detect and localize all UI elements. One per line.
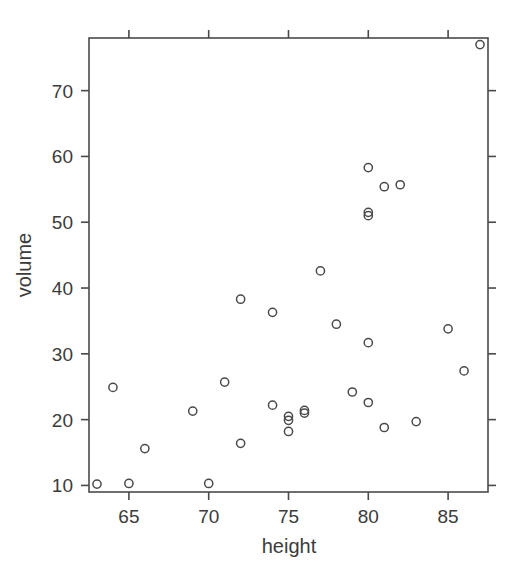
y-axis-title: volume	[13, 233, 35, 297]
scatter-plot-figure: 6570758085 10203040506070 height volume	[0, 0, 525, 577]
y-tick-label: 30	[52, 344, 73, 365]
y-tick-label: 20	[52, 410, 73, 431]
y-tick-label: 40	[52, 278, 73, 299]
x-tick-label: 65	[118, 506, 139, 527]
x-tick-label: 85	[438, 506, 459, 527]
x-tick-label: 75	[278, 506, 299, 527]
plot-background	[0, 0, 525, 577]
plot-canvas: 6570758085 10203040506070 height volume	[0, 0, 525, 577]
y-tick-label: 10	[52, 475, 73, 496]
y-tick-label: 70	[52, 81, 73, 102]
x-axis-title: height	[262, 535, 317, 557]
y-tick-label: 50	[52, 212, 73, 233]
x-tick-label: 80	[358, 506, 379, 527]
y-tick-label: 60	[52, 146, 73, 167]
x-tick-label: 70	[198, 506, 219, 527]
